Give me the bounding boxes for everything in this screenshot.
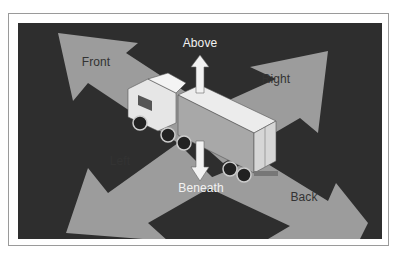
label-front: Front bbox=[82, 55, 111, 69]
diagram-panel: Front Above Right Left Beneath Back bbox=[18, 23, 382, 239]
label-back: Back bbox=[290, 190, 317, 204]
arrow-up-icon bbox=[191, 55, 209, 93]
label-left: Left bbox=[110, 154, 130, 168]
label-above: Above bbox=[183, 36, 218, 50]
label-beneath: Beneath bbox=[178, 181, 223, 195]
label-right: Right bbox=[262, 72, 291, 86]
